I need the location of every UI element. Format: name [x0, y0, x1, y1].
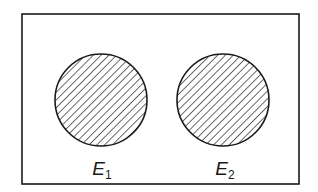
venn-diagram — [0, 0, 318, 192]
event-e2-circle — [177, 54, 269, 146]
event-e2-name: E — [215, 158, 228, 179]
event-e1-name: E — [92, 158, 105, 179]
event-e2-label: E2 — [215, 158, 234, 182]
event-e1-circle — [55, 54, 147, 146]
event-e2-subscript: 2 — [228, 168, 235, 182]
event-e1-label: E1 — [92, 158, 111, 182]
event-e1-subscript: 1 — [105, 168, 112, 182]
